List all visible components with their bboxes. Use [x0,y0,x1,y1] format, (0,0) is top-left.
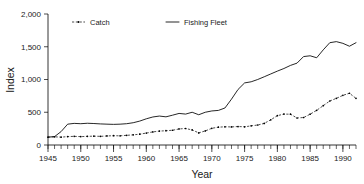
x-axis-title: Year [191,168,213,180]
x-tick-label: 1975 [236,154,254,163]
series-marker-catch [198,132,200,134]
chart-legend: CatchFishing Fleet [72,18,228,27]
line-chart: 05001,0001,5002,000 19451950195519601965… [0,0,364,184]
x-tick-label: 1950 [72,154,90,163]
series-marker-catch [270,119,272,121]
series-marker-catch [185,128,187,130]
x-tick-label: 1965 [170,154,188,163]
series-marker-catch [100,136,102,138]
series-marker-catch [303,117,305,119]
series-marker-catch [349,92,351,94]
series-marker-catch [152,131,154,133]
y-axis-ticks [44,14,48,145]
series-marker-catch [60,136,62,138]
series-marker-catch [296,117,298,119]
series-marker-catch [342,95,344,97]
series-marker-catch [290,113,292,115]
series-marker-catch [80,136,82,138]
x-tick-label: 1990 [334,154,352,163]
series-marker-catch [139,133,141,135]
series-marker-catch [329,100,331,102]
series-marker-catch [244,126,246,128]
y-tick-label: 500 [28,108,42,117]
series-marker-catch [237,126,239,128]
series-marker-catch [257,124,259,126]
y-tick-label: 1,500 [21,43,42,52]
series-line-catch [48,93,356,137]
series-marker-catch [93,135,95,137]
y-axis-tick-labels: 05001,0001,5002,000 [21,10,42,150]
series-marker-catch [86,136,88,138]
x-tick-label: 1960 [137,154,155,163]
series-marker-catch [191,129,193,131]
legend-label-catch: Catch [90,18,110,27]
series-marker-catch [250,125,252,127]
series-marker-catch [145,132,147,134]
series-marker-catch [263,123,265,125]
series-marker-catch [204,130,206,132]
series-marker-catch [73,136,75,138]
x-axis-major-ticks [48,145,343,152]
x-tick-label: 1955 [105,154,123,163]
series-marker-catch [283,113,285,115]
y-tick-label: 2,000 [21,10,42,19]
y-axis-title: Index [4,66,16,92]
x-tick-label: 1945 [39,154,57,163]
x-tick-label: 1985 [301,154,319,163]
series-marker-catch [126,134,128,136]
data-series-group [47,42,357,138]
x-axis-tick-labels: 1945195019551960196519701975198019851990 [39,154,352,163]
series-marker-catch [211,127,213,129]
series-marker-catch [172,129,174,131]
series-marker-catch [119,135,121,137]
y-tick-label: 0 [37,141,42,150]
series-marker-catch [316,109,318,111]
series-marker-catch [355,98,357,100]
series-marker-catch [106,135,108,137]
legend-marker-catch [78,21,80,23]
x-tick-label: 1980 [268,154,286,163]
series-marker-catch [322,105,324,107]
x-tick-label: 1970 [203,154,221,163]
series-marker-catch [277,115,279,117]
series-marker-catch [224,126,226,128]
series-marker-catch [335,98,337,100]
series-marker-catch [132,134,134,136]
series-marker-catch [231,126,233,128]
chart-container: 05001,0001,5002,000 19451950195519601965… [0,0,364,184]
series-marker-catch [67,136,69,138]
series-line-fishing-fleet [48,42,356,138]
legend-label-fishing-fleet: Fishing Fleet [184,18,228,27]
series-marker-catch [113,135,115,137]
series-marker-catch [218,126,220,128]
series-marker-catch [165,130,167,132]
series-marker-catch [159,130,161,132]
series-marker-catch [178,128,180,130]
y-tick-label: 1,000 [21,75,42,84]
series-marker-catch [309,113,311,115]
